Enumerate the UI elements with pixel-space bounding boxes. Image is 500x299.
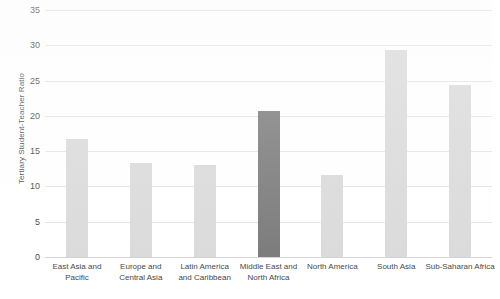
x-axis-label-line: Sub-Saharan Africa [417, 262, 500, 273]
x-axis-label-line: North Africa [226, 273, 312, 284]
bar [385, 50, 407, 257]
y-tick-label-15: 15 [30, 147, 40, 156]
bar [258, 111, 280, 257]
y-tick-label-0: 0 [35, 253, 40, 262]
bar [194, 165, 216, 257]
gridline-0: 0 [45, 257, 492, 258]
y-axis-title: Tertiary Student-Teacher Ratio [14, 0, 28, 257]
bar [130, 163, 152, 257]
gridline-35: 35 [45, 10, 492, 11]
bar [321, 175, 343, 257]
y-tick-label-5: 5 [35, 217, 40, 226]
y-tick-label-30: 30 [30, 41, 40, 50]
y-tick-label-25: 25 [30, 76, 40, 85]
gridline-25: 25 [45, 81, 492, 82]
x-axis-label: Sub-Saharan Africa [417, 262, 500, 273]
bar [66, 139, 88, 257]
plot-area: 05101520253035 [45, 10, 492, 257]
bar [449, 85, 471, 257]
y-tick-label-35: 35 [30, 6, 40, 15]
gridline-30: 30 [45, 45, 492, 46]
y-tick-label-20: 20 [30, 111, 40, 120]
y-tick-label-10: 10 [30, 182, 40, 191]
